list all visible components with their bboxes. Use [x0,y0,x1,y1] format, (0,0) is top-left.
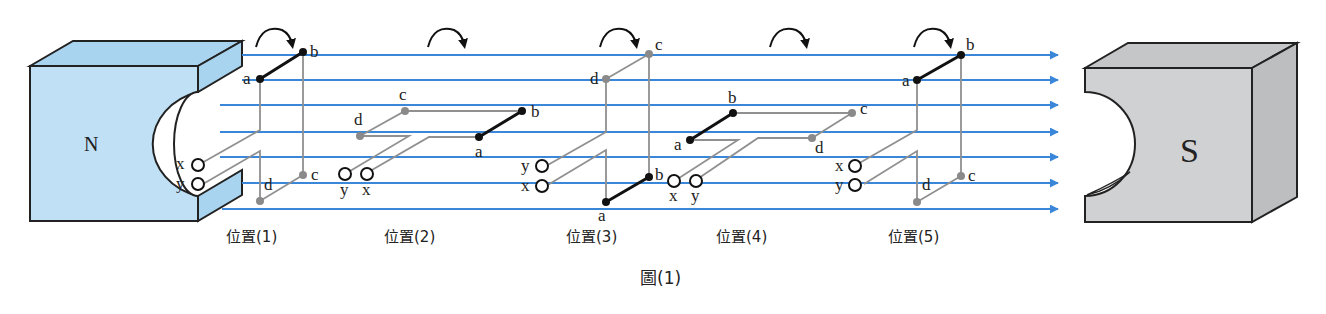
position-3-label: 位置(3) [566,228,617,246]
point-d-label: d [922,175,931,194]
terminal-x-label: x [521,176,530,195]
point-d-label: d [815,138,824,157]
point-a-label: a [243,69,251,88]
point-a-label: a [674,135,682,154]
point-a-label: a [475,142,483,161]
point-c-label: c [399,85,407,104]
point-c-label: c [655,35,663,54]
terminal-y-label: y [340,180,349,199]
point-d-label: d [354,110,363,129]
terminal-x-label: x [835,156,844,175]
point-b-label: b [728,88,737,107]
point-a-label: a [902,71,910,90]
figure-caption: 圖(1) [640,268,681,288]
coil-position-2: a b c d y x 位置(2) [339,85,540,246]
point-b-label: b [531,102,540,121]
north-pole-label: N [84,133,98,155]
point-a-label: a [598,206,606,225]
south-magnet: S [1085,43,1297,222]
point-c-label: c [311,165,319,184]
clockwise-arrow-icon [256,29,292,47]
clockwise-arrow-icon [914,29,950,47]
point-d-label: d [590,69,599,88]
point-b-label: b [966,35,975,54]
coil-position-3: a b c d y x 位置(3) [521,35,664,246]
position-1-label: 位置(1) [226,228,277,246]
terminal-y-label: y [176,174,185,193]
terminal-y-label: y [835,175,844,194]
position-2-label: 位置(2) [384,228,435,246]
coil-position-5: a b c d x y 位置(5) [835,35,976,246]
point-d-label: d [264,175,273,194]
position-5-label: 位置(5) [888,228,939,246]
point-b-label: b [310,42,319,61]
electromagnetic-induction-figure: N S [0,0,1326,314]
rotation-arrows [256,29,950,47]
south-pole-label: S [1180,132,1199,169]
terminal-x-label: x [669,186,678,205]
terminal-y-label: y [521,156,530,175]
point-c-label: c [968,166,976,185]
terminal-x-label: x [176,154,185,173]
point-c-label: c [860,99,868,118]
terminal-x-label: x [362,180,371,199]
clockwise-arrow-icon [600,29,636,47]
clockwise-arrow-icon [770,29,806,47]
north-magnet: N [30,41,242,221]
point-b-label: b [655,165,664,184]
terminal-y-label: y [691,186,700,205]
clockwise-arrow-icon [428,29,464,47]
position-4-label: 位置(4) [716,228,767,246]
